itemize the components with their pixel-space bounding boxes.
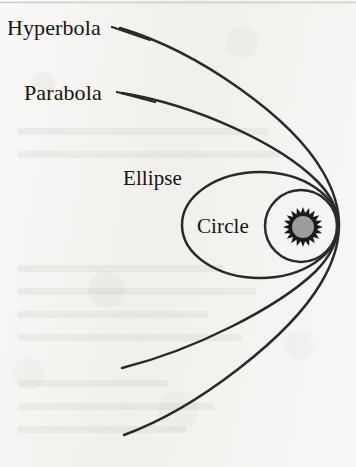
orbit-diagram-svg	[0, 0, 356, 467]
label-parabola: Parabola	[24, 80, 102, 106]
label-ellipse: Ellipse	[123, 166, 182, 191]
leader-line-parabola	[117, 92, 155, 102]
leader-line-hyperbola	[112, 27, 150, 40]
sun-disc	[291, 215, 316, 240]
sun-symbol	[283, 207, 323, 247]
label-hyperbola: Hyperbola	[7, 15, 101, 41]
label-circle: Circle	[197, 214, 249, 239]
conic-orbits-figure: Hyperbola Parabola Ellipse Circle	[0, 0, 356, 467]
